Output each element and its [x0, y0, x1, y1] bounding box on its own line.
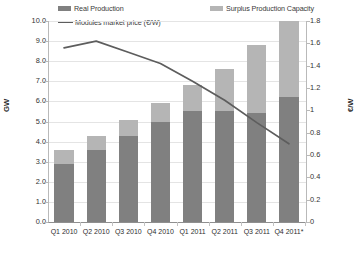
x-axis-tick-mark [112, 222, 113, 226]
y-axis-left-tick-label: 9.0 [6, 37, 46, 44]
y-axis-left-tick-label: 2.0 [6, 178, 46, 185]
gridline [49, 41, 306, 42]
y-axis-left-tick-mark [44, 142, 48, 143]
y-axis-left-tick-mark [44, 162, 48, 163]
legend-label-real-production: Real Production [74, 4, 124, 13]
x-axis-tick-label: Q1 2011 [177, 228, 209, 235]
y-axis-left-tick-label: 8.0 [6, 57, 46, 64]
y-axis-left-tick-label: 10.0 [6, 17, 46, 24]
y-axis-right-tick-mark [306, 177, 310, 178]
legend-item-real-production: Real Production [58, 4, 124, 13]
y-axis-right-tick-label: 1.4 [310, 62, 350, 69]
gridline [49, 202, 306, 203]
x-axis-tick-label: Q3 2010 [112, 228, 144, 235]
y-axis-right-tick-label: 0.4 [310, 174, 350, 181]
y-axis-left-tick-mark [44, 122, 48, 123]
y-axis-left-tick-mark [44, 81, 48, 82]
gridline [49, 81, 306, 82]
gridline [49, 142, 306, 143]
x-axis-tick-mark [305, 222, 306, 226]
y-axis-left-tick-mark [44, 41, 48, 42]
y-axis-left-tick-label: 1.0 [6, 198, 46, 205]
legend-label-surplus-production-capacity: Surplus Production Capacity [226, 4, 314, 13]
y-axis-right-tick-label: 0.2 [310, 196, 350, 203]
y-axis-left-title: GW [2, 99, 11, 112]
y-axis-left-tick-label: 7.0 [6, 78, 46, 85]
x-axis-tick-label: Q4 2010 [144, 228, 176, 235]
x-axis-tick-mark [177, 222, 178, 226]
y-axis-left-tick-mark [44, 61, 48, 62]
y-axis-right-tick-mark [306, 200, 310, 201]
y-axis-right-tick-label: 1.8 [310, 17, 350, 24]
gridline [49, 101, 306, 102]
y-axis-right-tick-mark [306, 110, 310, 111]
x-axis-tick-label: Q2 2011 [209, 228, 241, 235]
plot-area [48, 21, 307, 223]
y-axis-right-tick-mark [306, 155, 310, 156]
x-axis-tick-label: Q2 2010 [80, 228, 112, 235]
y-axis-left-tick-label: 6.0 [6, 98, 46, 105]
y-axis-right-tick-mark [306, 133, 310, 134]
legend-swatch-real-production [58, 6, 71, 11]
y-axis-right-title: €/W [346, 98, 355, 112]
y-axis-right-tick-mark [306, 66, 310, 67]
gridline [49, 122, 306, 123]
legend-swatch-surplus-production-capacity [210, 6, 223, 11]
legend-item-surplus-production-capacity: Surplus Production Capacity [210, 4, 314, 13]
x-axis-tick-mark [273, 222, 274, 226]
y-axis-right-tick-mark [306, 222, 310, 223]
y-axis-right-tick-mark [306, 88, 310, 89]
y-axis-right-tick-label: 0 [310, 218, 350, 225]
y-axis-left-tick-mark [44, 182, 48, 183]
x-axis-tick-label: Q3 2011 [241, 228, 273, 235]
x-axis-tick-mark [241, 222, 242, 226]
y-axis-right-tick-label: 0.6 [310, 151, 350, 158]
gridline [49, 61, 306, 62]
y-axis-left-tick-mark [44, 202, 48, 203]
x-axis-tick-mark [80, 222, 81, 226]
y-axis-left-tick-mark [44, 222, 48, 223]
x-axis-tick-label: Q1 2010 [48, 228, 80, 235]
gridline [49, 182, 306, 183]
gridline [49, 162, 306, 163]
y-axis-left-tick-label: 0.0 [6, 218, 46, 225]
gridline [49, 21, 306, 22]
y-axis-left-tick-label: 4.0 [6, 138, 46, 145]
y-axis-left-tick-mark [44, 21, 48, 22]
y-axis-left-tick-label: 3.0 [6, 158, 46, 165]
y-axis-right-tick-mark [306, 21, 310, 22]
y-axis-right-tick-mark [306, 43, 310, 44]
x-axis-tick-label: Q4 2011* [273, 228, 305, 235]
y-axis-right-tick-label: 1.2 [310, 84, 350, 91]
y-axis-right-tick-label: 1 [310, 107, 350, 114]
y-axis-left-tick-mark [44, 101, 48, 102]
y-axis-left-tick-label: 5.0 [6, 118, 46, 125]
x-axis-tick-mark [209, 222, 210, 226]
x-axis-tick-mark [144, 222, 145, 226]
y-axis-right-tick-label: 0.8 [310, 129, 350, 136]
y-axis-right-tick-label: 1.6 [310, 40, 350, 47]
